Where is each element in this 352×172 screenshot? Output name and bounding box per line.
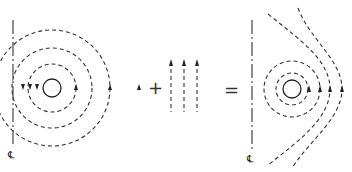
- streamline-open-outer: [292, 8, 342, 168]
- arrow-down-icon: [21, 84, 25, 90]
- panel-circulation: ℄: [0, 20, 141, 160]
- streamline-closed-inner: [276, 73, 308, 105]
- streamline-circle-inner: [28, 64, 76, 112]
- panel-uniform-flow: [169, 59, 199, 112]
- arrow-down-icon: [28, 84, 32, 90]
- centerline-label: ℄: [7, 149, 15, 160]
- arrow-up-icon: [182, 59, 186, 66]
- panel-combined-flow: ℄: [246, 8, 344, 168]
- arrow-up-icon: [108, 84, 112, 90]
- cylinder: [43, 79, 61, 97]
- arrow-up-icon: [169, 59, 173, 66]
- arrow-up-icon: [137, 84, 141, 90]
- equals-operator: =: [224, 79, 239, 100]
- arrow-up-icon: [318, 85, 322, 92]
- streamline-circle-outer: [0, 30, 110, 146]
- arrow-up-icon: [340, 85, 344, 92]
- cylinder: [283, 80, 301, 98]
- arrow-up-icon: [195, 59, 199, 66]
- streamline-circle-middle: [12, 48, 92, 128]
- centerline-label: ℄: [246, 153, 254, 164]
- streamline-closed-outer: [264, 61, 320, 117]
- arrow-up-icon: [74, 84, 78, 90]
- arrow-up-icon: [328, 85, 332, 92]
- plus-operator: +: [148, 77, 163, 98]
- arrow-down-icon: [35, 84, 39, 90]
- flow-superposition-diagram: ℄ + = ℄: [0, 0, 352, 172]
